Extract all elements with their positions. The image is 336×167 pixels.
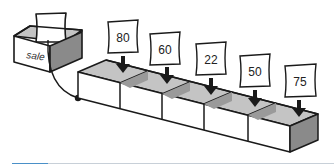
array-value-0: 80 (116, 31, 130, 45)
array-value-4: 75 (293, 75, 307, 89)
array-value-1: 60 (158, 43, 172, 57)
array-reference-diagram: sale (0, 0, 336, 167)
array-value-2: 22 (204, 53, 218, 67)
bottom-divider (12, 163, 334, 164)
array-value-3: 50 (248, 65, 262, 79)
